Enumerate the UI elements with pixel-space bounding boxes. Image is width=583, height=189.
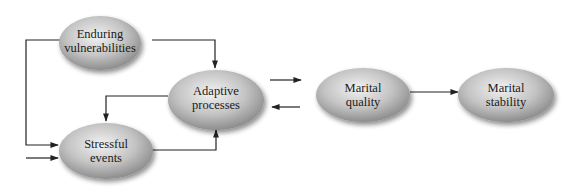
label-stressful-line1: Stressful: [84, 137, 128, 151]
label-enduring-line1: Enduring: [77, 27, 124, 41]
edge-adaptive-to-stressful: [106, 96, 168, 121]
edge-stressful-to-adaptive: [152, 130, 216, 150]
label-adaptive-line1: Adaptive: [193, 84, 239, 98]
label-stressful-line2: events: [90, 151, 122, 165]
edge-enduring-to-adaptive: [152, 40, 215, 68]
node-quality: Marital quality: [316, 68, 410, 122]
node-stressful: Stressful events: [59, 123, 153, 179]
label-stability-line1: Marital: [488, 81, 525, 95]
node-adaptive: Adaptive processes: [168, 70, 264, 130]
label-quality-line1: Marital: [345, 81, 382, 95]
label-enduring-line2: vulnerabilities: [64, 41, 136, 55]
label-stability-line2: stability: [486, 95, 527, 109]
label-adaptive-line2: processes: [192, 98, 240, 112]
node-stability: Marital stability: [458, 68, 554, 122]
diagram-canvas: Enduring vulnerabilities Adaptive proces…: [0, 0, 583, 189]
edge-enduring-to-stressful: [26, 40, 60, 145]
label-quality-line2: quality: [346, 95, 381, 109]
node-enduring: Enduring vulnerabilities: [59, 16, 141, 70]
